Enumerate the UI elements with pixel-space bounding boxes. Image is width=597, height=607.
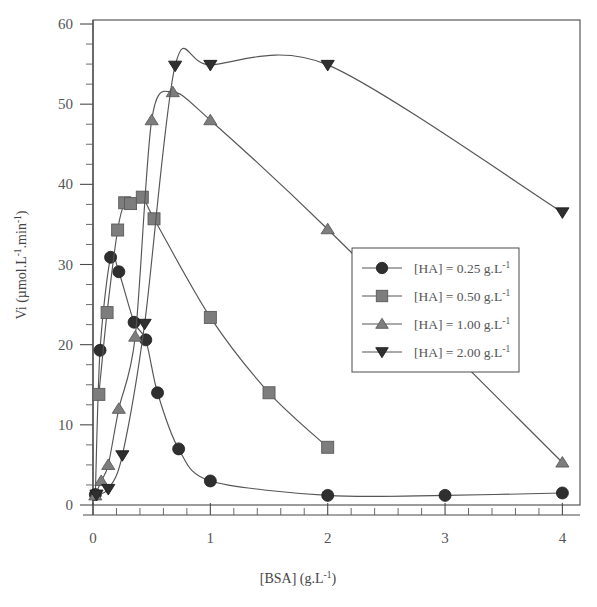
y-tick-label: 30 [58,257,73,273]
chart-legend: [HA] = 0.25 g.L-1[HA] = 0.50 g.L-1[HA] =… [352,248,519,372]
x-tick-label: 2 [324,530,332,546]
marker-circle [556,487,568,499]
marker-circle [152,387,164,399]
chart-figure: 01234 0102030405060 [HA] = 0.25 g.L-1[HA… [0,0,597,607]
marker-square [204,311,216,323]
chart-svg: 01234 0102030405060 [HA] = 0.25 g.L-1[HA… [0,0,597,607]
legend-sup-2: -1 [502,316,510,326]
marker-circle [439,489,451,501]
legend-label-3: [HA] = 2.00 g.L-1 [414,344,510,360]
y-tick-label: 10 [58,417,73,433]
marker-square [263,387,275,399]
y-tick-label: 20 [58,337,73,353]
marker-square [322,441,334,453]
marker-circle [128,316,140,328]
marker-square [125,198,137,210]
legend-label-1: [HA] = 0.50 g.L-1 [414,288,510,304]
y-title-tail: ) [14,210,30,215]
legend-sup-1: -1 [502,288,510,298]
marker-circle [376,262,387,273]
marker-circle [173,443,185,455]
legend-sup-0: -1 [502,260,510,270]
x-tick-label: 1 [207,530,215,546]
marker-square [136,191,148,203]
marker-circle [94,344,106,356]
marker-square [101,307,113,319]
marker-square [376,290,387,301]
legend-label-2: [HA] = 1.00 g.L-1 [414,316,510,332]
x-title-tail: ) [332,571,337,587]
legend-sup-3: -1 [502,344,510,354]
y-title-part-2: .min [14,223,29,248]
y-axis-title: Vi (µmol.L-1.min-1) [13,210,30,319]
y-tick-label: 0 [66,497,74,513]
legend-label-0: [HA] = 0.25 g.L-1 [414,260,510,276]
y-tick-label: 60 [58,16,73,32]
marker-circle [204,475,216,487]
x-tick-label: 0 [89,530,97,546]
marker-square [112,224,124,236]
marker-square [148,213,160,225]
marker-circle [113,266,125,278]
y-tick-label: 50 [58,96,73,112]
x-tick-label: 3 [441,530,449,546]
marker-square [93,388,105,400]
y-tick-label: 40 [58,176,73,192]
x-tick-label: 4 [559,530,567,546]
marker-circle [322,489,334,501]
